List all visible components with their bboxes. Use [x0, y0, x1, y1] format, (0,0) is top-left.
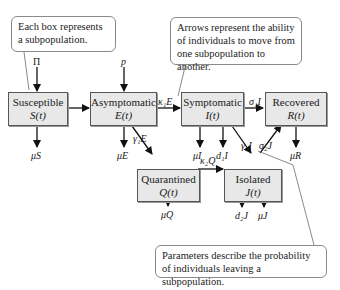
box-recovered-var: R(t): [266, 109, 326, 122]
box-isolated: Isolated J(t): [224, 169, 282, 202]
label-s1I: σ₁I: [249, 96, 261, 107]
box-susceptible: Susceptible S(t): [8, 92, 68, 126]
label-k2Q: κ₂Q: [200, 155, 216, 166]
callout-pointer-params: [258, 151, 293, 165]
label-muQ: μQ: [161, 209, 173, 220]
label-muS: μS: [31, 150, 41, 161]
label-p: p: [121, 56, 126, 67]
box-symptomatic-var: I(t): [182, 109, 243, 122]
box-quarantined-name: Quarantined: [141, 173, 195, 185]
label-s2J: σ₂J: [259, 140, 272, 151]
label-d2J: d₂J: [235, 210, 248, 221]
box-recovered: Recovered R(t): [265, 92, 327, 126]
callout-boxes: Each box represents a subpopulation.: [11, 16, 116, 52]
box-isolated-var: J(t): [225, 186, 281, 199]
label-pi: Π: [33, 56, 40, 67]
box-asymptomatic-var: E(t): [91, 109, 156, 122]
box-symptomatic-name: Symptomatic: [183, 96, 242, 108]
box-susceptible-var: S(t): [9, 109, 67, 122]
box-symptomatic: Symptomatic I(t): [181, 92, 244, 126]
label-muI: μI: [193, 150, 201, 161]
callout-pointer-params-2: [293, 165, 314, 245]
label-g2I: γ₂I: [241, 140, 252, 151]
label-k1E: κ₁E: [158, 96, 172, 107]
label-g1E: γ₁E: [133, 133, 147, 144]
label-muE: μE: [117, 150, 128, 161]
box-recovered-name: Recovered: [272, 96, 319, 108]
box-quarantined-var: Q(t): [138, 186, 199, 199]
callout-parameters: Parameters describe the probability of i…: [155, 245, 327, 278]
box-susceptible-name: Susceptible: [13, 96, 64, 108]
box-asymptomatic: Asymptomatic E(t): [90, 92, 157, 126]
label-d1I: d₁I: [216, 150, 228, 161]
label-muJ: μJ: [258, 210, 267, 221]
callout-pointer-boxes: [24, 52, 29, 90]
label-muR: μR: [290, 150, 301, 161]
box-isolated-name: Isolated: [236, 173, 271, 185]
box-asymptomatic-name: Asymptomatic: [91, 96, 156, 108]
callout-arrows: Arrows represent the ability of individu…: [170, 17, 302, 65]
box-quarantined: Quarantined Q(t): [137, 169, 200, 202]
